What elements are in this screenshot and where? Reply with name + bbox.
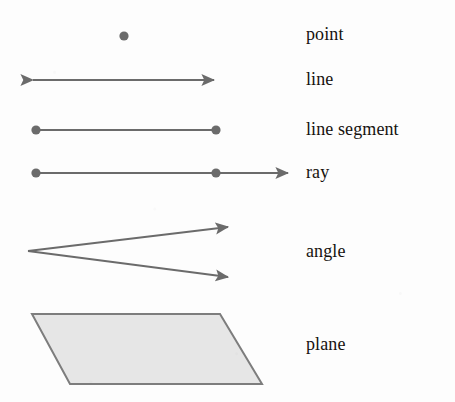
geometry-diagram-page: point line line segment ray angle plane [0, 0, 455, 402]
label-point: point [306, 25, 344, 43]
plane-parallelogram [32, 314, 262, 384]
ray-endpoint-origin [31, 168, 40, 177]
point-dot [119, 31, 128, 40]
label-angle: angle [306, 242, 345, 260]
label-ray: ray [306, 163, 329, 181]
figure-plane [32, 314, 262, 384]
angle-ray-lower [28, 251, 228, 277]
ray-endpoint-through [211, 168, 220, 177]
figure-angle [28, 227, 228, 277]
angle-ray-upper [28, 227, 228, 251]
line-segment-endpoint-right [211, 125, 220, 134]
label-plane: plane [306, 335, 345, 353]
line-segment-endpoint-left [31, 125, 40, 134]
label-line: line [306, 70, 333, 88]
figure-line-segment [31, 125, 220, 134]
figure-ray [31, 168, 288, 177]
figure-point [119, 31, 128, 40]
label-line-segment: line segment [306, 120, 399, 138]
figures-canvas [0, 0, 300, 402]
